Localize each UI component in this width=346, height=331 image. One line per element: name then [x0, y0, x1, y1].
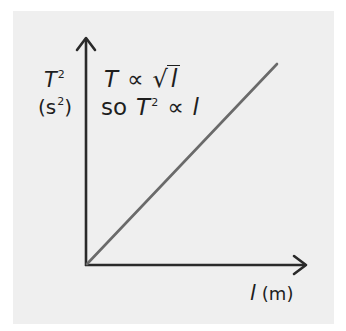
proportional-to-symbol: ∝ — [167, 94, 183, 120]
relation2-lhs: T — [136, 94, 150, 120]
y-axis-label: T2 — [44, 70, 65, 91]
x-axis-variable: l — [250, 281, 256, 305]
relation1-rhs: l — [167, 65, 181, 91]
y-axis-unit-close: ) — [64, 95, 72, 119]
y-axis-unit-open: (s — [38, 95, 56, 119]
relation-squared: soT2∝l — [101, 96, 199, 119]
x-axis-unit: (m) — [262, 283, 294, 304]
y-axis-unit: (s2) — [38, 97, 72, 117]
y-axis-variable: T — [44, 68, 57, 92]
relation2-prefix: so — [101, 94, 127, 120]
sqrt-sign-icon: √ — [153, 65, 168, 93]
square-root: √l — [153, 65, 181, 91]
relation2-exponent: 2 — [151, 96, 158, 109]
y-axis-exponent: 2 — [58, 68, 65, 81]
y-axis-unit-exponent: 2 — [57, 95, 64, 108]
proportionality-graph — [0, 0, 346, 331]
relation-sqrt: T∝√l — [104, 65, 180, 91]
proportional-to-symbol: ∝ — [127, 66, 143, 92]
relation1-lhs: T — [104, 66, 118, 92]
x-axis-label: l(m) — [250, 283, 293, 304]
relation2-rhs: l — [193, 94, 199, 120]
